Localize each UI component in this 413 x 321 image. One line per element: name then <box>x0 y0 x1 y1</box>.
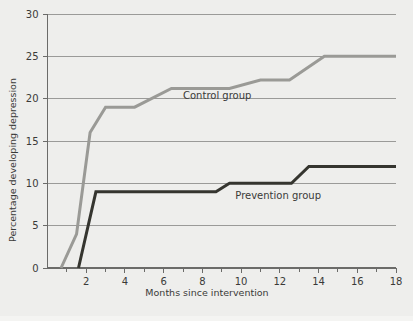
y-tick-labels: 051015202530 <box>26 9 39 274</box>
y-tick-label-25: 25 <box>26 51 39 62</box>
x-tick-labels: 24681012141618 <box>83 276 402 287</box>
y-tick-label-30: 30 <box>26 9 39 20</box>
x-tick-label-10: 10 <box>235 276 248 287</box>
series-line-control <box>61 56 396 268</box>
x-tick-label-16: 16 <box>351 276 364 287</box>
chart-figure: 24681012141618 051015202530 Control grou… <box>0 0 413 321</box>
x-axis-title: Months since intervention <box>145 287 268 298</box>
x-tick-label-6: 6 <box>160 276 166 287</box>
series-label-control: Control group <box>183 90 251 101</box>
series-lines <box>61 56 396 268</box>
x-tick-label-2: 2 <box>83 276 89 287</box>
y-tick-label-20: 20 <box>26 93 39 104</box>
x-tick-label-4: 4 <box>122 276 128 287</box>
series-line-prevention <box>78 166 396 268</box>
x-tick-label-8: 8 <box>199 276 205 287</box>
gridlines <box>48 14 397 226</box>
tick-marks <box>43 14 397 273</box>
y-tick-label-5: 5 <box>32 220 38 231</box>
x-tick-label-12: 12 <box>273 276 286 287</box>
y-axis-title: Percentage developing depression <box>7 78 18 242</box>
y-tick-label-0: 0 <box>32 263 38 274</box>
series-label-prevention: Prevention group <box>235 190 321 201</box>
line-chart: 24681012141618 051015202530 Control grou… <box>0 0 413 321</box>
x-tick-label-18: 18 <box>390 276 403 287</box>
y-tick-label-15: 15 <box>26 136 39 147</box>
y-tick-label-10: 10 <box>26 178 39 189</box>
footer-strip <box>0 316 413 321</box>
x-tick-label-14: 14 <box>312 276 325 287</box>
